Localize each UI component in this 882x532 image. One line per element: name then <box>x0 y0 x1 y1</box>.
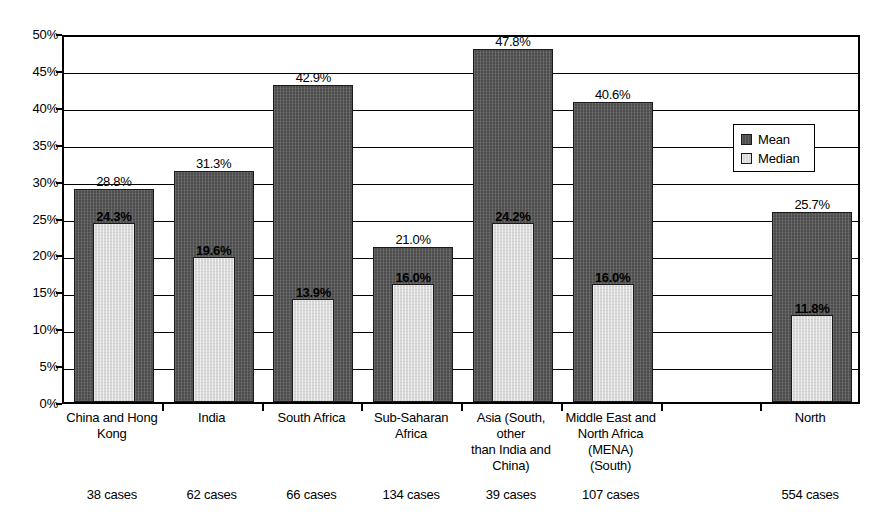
legend-item-median: Median <box>741 149 814 168</box>
x-category-label-line: (MENA) <box>549 442 673 458</box>
x-category-label-line: Kong <box>50 426 174 442</box>
bar-value-label-mean: 28.8% <box>62 175 166 189</box>
x-category-label: Middle East andNorth Africa(MENA)(South) <box>549 410 673 474</box>
bar-value-label-mean: 31.3% <box>162 157 266 171</box>
y-tick-label: 20% <box>2 249 58 262</box>
bar-median <box>791 315 833 402</box>
bar-value-label-mean: 47.8% <box>461 35 565 49</box>
grouped-bar-chart: 50%45%40%35%30%25%20%15%10%5%0% 28.8%24.… <box>0 0 882 532</box>
y-tick-label: 5% <box>2 360 58 373</box>
bar-median <box>193 257 235 402</box>
x-category-label-line: North <box>748 410 872 426</box>
y-tick-label: 40% <box>2 102 58 115</box>
x-category-label-line: North Africa <box>549 426 673 442</box>
bar-value-label-mean: 25.7% <box>760 198 864 212</box>
x-axis-labels: China and HongKongIndiaSouth AfricaSub-S… <box>0 410 882 480</box>
bar-value-label-mean: 21.0% <box>361 233 465 247</box>
bar-value-label-median: 11.8% <box>773 302 851 316</box>
mean-swatch-icon <box>741 134 752 145</box>
case-count-label: 107 cases <box>551 487 671 503</box>
legend-label-median: Median <box>758 152 799 165</box>
bar-value-label-mean: 42.9% <box>261 71 365 85</box>
legend-item-mean: Mean <box>741 130 814 149</box>
y-tick-label: 50% <box>2 28 58 41</box>
y-tick-label: 25% <box>2 213 58 226</box>
bar-value-label-median: 24.3% <box>75 210 153 224</box>
bar-value-label-mean: 40.6% <box>561 88 665 102</box>
legend-label-mean: Mean <box>758 133 790 146</box>
y-tick-label: 10% <box>2 323 58 336</box>
median-swatch-icon <box>741 153 752 164</box>
bar-value-label-median: 19.6% <box>175 244 253 258</box>
case-count-labels: 38 cases62 cases66 cases134 cases39 case… <box>0 487 882 511</box>
bar-median <box>492 223 534 402</box>
x-category-label-line: Middle East and <box>549 410 673 426</box>
x-category-label: North <box>748 410 872 426</box>
bar-median <box>592 284 634 402</box>
y-axis: 50%45%40%35%30%25%20%15%10%5%0% <box>0 0 58 404</box>
gridline <box>64 73 858 74</box>
bar-value-label-median: 16.0% <box>374 271 452 285</box>
y-tick-label: 15% <box>2 286 58 299</box>
y-tick-label: 45% <box>2 65 58 78</box>
plot-area: 28.8%24.3%31.3%19.6%42.9%13.9%21.0%16.0%… <box>62 35 860 404</box>
bar-value-label-median: 13.9% <box>274 286 352 300</box>
gridline <box>64 110 858 111</box>
bar-median <box>292 299 334 402</box>
bar-value-label-median: 16.0% <box>574 271 652 285</box>
chart-legend: Mean Median <box>733 124 815 172</box>
case-count-label: 554 cases <box>750 487 870 503</box>
bar-value-label-median: 24.2% <box>474 210 552 224</box>
y-tick-label: 30% <box>2 176 58 189</box>
y-tick-label: 35% <box>2 139 58 152</box>
bar-median <box>93 223 135 402</box>
bar-median <box>392 284 434 402</box>
x-category-label-line: (South) <box>549 458 673 474</box>
y-tick-label: 0% <box>2 397 58 410</box>
